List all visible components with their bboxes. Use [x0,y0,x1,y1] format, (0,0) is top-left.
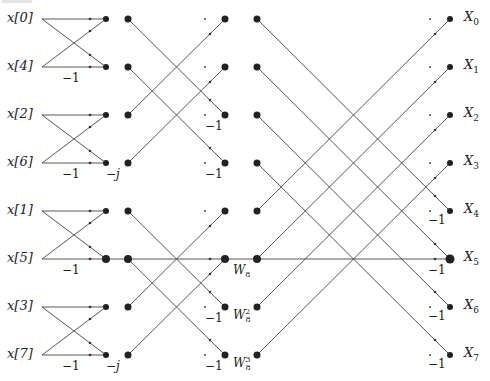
stage2-input-nodes [124,16,132,359]
twiddle-sub: 8 [245,270,250,279]
branch-arrow-markers [89,18,437,357]
output-label-X6: X6 [464,298,479,315]
output-base: X [464,249,473,264]
output-index: 7 [473,353,479,363]
output-label-X5: X5 [464,250,479,267]
stage1-output-nodes [102,16,110,358]
twiddle-base: W [233,263,245,277]
twiddle-W8: W8 [233,264,250,279]
stage2-multiplier-row3: −1 [205,168,223,180]
output-index: 6 [473,305,479,315]
twiddle-base: W [233,356,245,370]
output-index: 3 [473,161,479,171]
output-label-X3: X3 [464,154,479,171]
output-label-X2: X2 [464,106,479,123]
output-base: X [464,9,473,24]
output-label-X1: X1 [464,58,479,75]
output-base: X [464,345,473,360]
output-index: 2 [473,113,479,123]
stage1-butterfly-0 [42,19,106,67]
input-label-x5: x[5] [7,251,33,264]
stage3-multiplier-row5: −1 [428,264,446,276]
input-label-x4: x[4] [7,59,33,72]
stage1-butterfly-3 [42,307,106,355]
output-label-X0: X0 [464,10,479,27]
input-label-x3: x[3] [7,299,33,312]
twiddle-base: W [233,308,245,322]
stage3-multiplier-row7: −1 [428,358,446,370]
stage3-input-nodes [253,16,261,359]
output-index: 5 [473,257,479,267]
output-nodes [446,16,455,358]
output-index: 4 [473,209,479,219]
output-base: X [464,57,473,72]
stage1-multiplier-row1: −1 [62,72,80,84]
stage1-multiplier-row3: −1 [62,168,80,180]
input-label-x6: x[6] [7,155,33,168]
output-base: X [464,297,473,312]
input-label-x2: x[2] [7,107,33,120]
twiddle-sub: 8 [245,315,250,324]
stage1-branches [42,19,450,355]
input-label-x0: x[0] [7,11,33,24]
output-index: 0 [473,17,479,27]
twiddle-W8-cubed: W38 [233,356,251,372]
stage3-multiplier-row6: −1 [428,310,446,322]
stage2-multiplier-row7: −1 [205,360,223,372]
twiddle-sub: 8 [245,363,250,372]
output-base: X [464,201,473,216]
stage1-butterfly-1 [42,115,106,163]
output-index: 1 [473,65,479,75]
input-label-x7: x[7] [7,347,33,360]
stage2-multiplier-row2: −1 [205,120,223,132]
stage2-multiplier-row6: −1 [205,312,223,324]
twiddle-neg-j-row7: −j [106,360,120,372]
twiddle-W8-squared: W28 [233,308,251,324]
twiddle-neg-j-row3: −j [106,168,120,180]
input-label-x1: x[1] [7,203,33,216]
stage1-multiplier-row7: −1 [62,360,80,372]
stage1-multiplier-row5: −1 [62,264,80,276]
stage2-output-nodes [221,16,229,359]
stage2-butterflies [106,19,225,355]
output-label-X4: X4 [464,202,479,219]
stage1-butterfly-2 [42,211,106,259]
output-base: X [464,105,473,120]
output-base: X [464,153,473,168]
stage3-multiplier-row4: −1 [428,214,446,226]
output-label-X7: X7 [464,346,479,363]
